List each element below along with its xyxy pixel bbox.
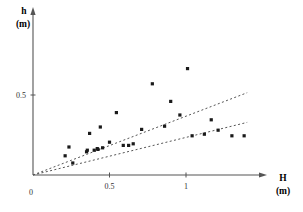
data-point [64, 154, 67, 157]
plot-canvas: 0.510.5 h (m) H (m) 0 [0, 0, 303, 212]
data-point [127, 144, 130, 147]
x-axis-tick-label: 0.5 [105, 182, 115, 191]
data-point [101, 146, 104, 149]
data-point [115, 111, 118, 114]
axes-group [30, 7, 267, 178]
data-point [88, 132, 91, 135]
data-point [243, 134, 246, 137]
upper-fit-line [33, 93, 247, 175]
x-axis-unit-label: (m) [276, 186, 290, 197]
data-point [86, 149, 89, 152]
y-axis-arrowhead [30, 7, 35, 15]
axis-tick-labels-group: 0.510.5 [16, 91, 188, 191]
data-point [217, 129, 220, 132]
data-point [203, 133, 206, 136]
data-point [96, 148, 99, 151]
data-point [140, 128, 143, 131]
data-point [210, 118, 213, 121]
x-axis-label: H [279, 173, 287, 183]
data-point [108, 141, 111, 144]
y-axis-tick-label: 0.5 [16, 91, 26, 100]
data-point [99, 125, 102, 128]
data-point [93, 149, 96, 152]
data-point [186, 67, 189, 70]
data-point [122, 144, 125, 147]
y-axis-unit-label: (m) [16, 19, 30, 30]
axis-ticks-group [31, 95, 187, 178]
y-axis-label: h [21, 6, 27, 16]
data-point [230, 134, 233, 137]
x-axis-arrowhead [259, 172, 267, 177]
data-point [191, 134, 194, 137]
x-axis-tick-label: 1 [184, 182, 188, 191]
data-point [178, 113, 181, 116]
data-point [169, 100, 172, 103]
data-point [67, 145, 70, 148]
scatter-plot-figure: 0.510.5 h (m) H (m) 0 [0, 0, 303, 212]
data-point [71, 161, 74, 164]
trend-lines-group [33, 93, 247, 175]
origin-tick-label: 0 [29, 188, 33, 197]
data-points-group [64, 67, 246, 165]
data-point [132, 142, 135, 145]
data-point [151, 82, 154, 85]
data-point [163, 125, 166, 128]
